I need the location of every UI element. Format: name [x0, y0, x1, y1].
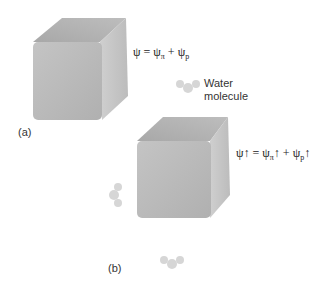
psi-symbol: ψ [133, 45, 141, 59]
up-arrow: ↑ [304, 146, 310, 160]
water-label-line1: Water [204, 77, 248, 90]
water-molecule-bottom [160, 256, 184, 269]
psi-pi: ψ [262, 146, 270, 160]
cube-a-front [33, 42, 102, 120]
plus: + [165, 45, 178, 59]
equals: = [141, 45, 154, 59]
equals: = [250, 146, 263, 160]
water-molecule-label: Water molecule [204, 77, 248, 103]
cube-b-front [137, 141, 211, 218]
psi-up-symbol: ψ↑ [236, 146, 250, 160]
diagram-canvas: ψ = ψπ + ψp (a) Water molecule ψ↑ = ψπ↑ … [0, 0, 332, 283]
cube-b [137, 117, 230, 218]
plus: + [280, 146, 293, 160]
panel-b-label: (b) [108, 262, 121, 274]
equation-a: ψ = ψπ + ψp [133, 45, 189, 61]
water-label-line2: molecule [204, 90, 248, 103]
psi-pi: ψ [153, 45, 161, 59]
equation-b: ψ↑ = ψπ↑ + ψp↑ [236, 146, 310, 162]
cube-a [33, 18, 128, 120]
water-molecule-top [176, 80, 200, 93]
p-subscript: p [185, 52, 189, 61]
panel-a-label: (a) [18, 126, 31, 138]
diagram-graphics [0, 0, 332, 283]
water-molecule-left [109, 183, 122, 207]
